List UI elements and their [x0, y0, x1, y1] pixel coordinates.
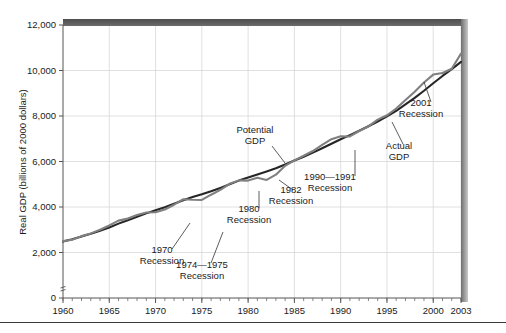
annotation-actual-gdp: ActualGDP	[386, 140, 412, 162]
annotation-recession-1990-1991: 1990—1991Recession	[304, 171, 356, 193]
x-tick-label: 1985	[284, 305, 305, 316]
annotation-line: 1980	[238, 203, 259, 214]
figure-container: 1970Recession1974—1975Recession1980Reces…	[0, 0, 506, 333]
annotation-line: Recession	[399, 108, 443, 119]
y-axis-title: Real GDP (billions of 2000 dollars)	[17, 89, 28, 235]
annotation-line: Recession	[227, 214, 271, 225]
annotation-line: 1982	[280, 184, 301, 195]
annotation-line: 1990—1991	[304, 171, 356, 182]
annotation-line: Potential	[237, 124, 274, 135]
y-axis-ticks	[59, 25, 63, 298]
y-tick-label: 10,000	[27, 65, 56, 76]
annotation-line: GDP	[389, 151, 410, 162]
x-tick-label: 2000	[423, 305, 444, 316]
annotation-line: GDP	[245, 135, 266, 146]
y-tick-label: 2,000	[32, 247, 56, 258]
x-tick-label: 1990	[330, 305, 351, 316]
x-tick-label: 1995	[376, 305, 397, 316]
annotation-line: Recession	[180, 270, 224, 281]
y-tick-label: 4,000	[32, 201, 56, 212]
annotation-line: Recession	[308, 182, 352, 193]
annotation-recession-1974-1975: 1974—1975Recession	[176, 259, 228, 281]
annotation-line: 1970	[151, 244, 172, 255]
svg-text:Real GDP (billions of 2000 dol: Real GDP (billions of 2000 dollars)	[17, 89, 28, 235]
x-tick-label: 1960	[52, 305, 73, 316]
y-tick-label: 8,000	[32, 110, 56, 121]
x-axis-ticks	[63, 298, 461, 303]
plot-top-shadow-band	[63, 19, 466, 26]
x-tick-label: 1965	[99, 305, 120, 316]
x-tick-label: 1970	[145, 305, 166, 316]
y-tick-label: 6,000	[32, 156, 56, 167]
annotation-line: Actual	[386, 140, 412, 151]
x-tick-label: 1975	[191, 305, 212, 316]
y-axis-tick-labels: 02,0004,0006,0008,00010,00012,000	[27, 19, 56, 303]
figure-bottom-rule	[0, 322, 506, 323]
x-axis-tick-labels: 1960196519701975198019851990199520002003	[52, 305, 471, 316]
y-tick-label: 0	[51, 292, 56, 303]
real-gdp-chart: 1970Recession1974—1975Recession1980Reces…	[0, 0, 506, 333]
annotation-line: 1974—1975	[176, 259, 228, 270]
x-tick-label: 1980	[238, 305, 259, 316]
plot-right-shadow-band	[461, 19, 468, 302]
y-tick-label: 12,000	[27, 19, 56, 30]
annotation-line: Recession	[269, 195, 313, 206]
x-tick-label: 2003	[450, 305, 471, 316]
annotation-line: 2001	[410, 97, 431, 108]
